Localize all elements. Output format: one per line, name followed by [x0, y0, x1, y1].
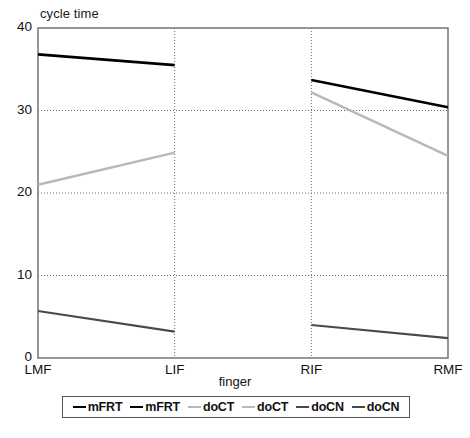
legend-item[interactable]: mFRT	[126, 400, 184, 414]
legend-item[interactable]: doCT	[184, 400, 238, 414]
series-line-docn	[311, 325, 448, 338]
legend-label: doCN	[311, 400, 344, 414]
legend-line-swatch-icon	[73, 406, 86, 408]
legend-label: mFRT	[88, 400, 123, 414]
series-line-mfrt	[38, 54, 175, 65]
legend-item[interactable]: doCT	[238, 400, 292, 414]
legend-label: doCT	[203, 400, 234, 414]
y-tick-label: 30	[4, 102, 32, 117]
legend-line-swatch-icon	[188, 406, 201, 408]
legend-line-swatch-icon	[352, 406, 365, 408]
legend-line-swatch-icon	[242, 406, 255, 408]
series-line-docn	[38, 311, 175, 332]
grid-lines	[38, 28, 448, 358]
chart-root: cycle time 010203040 LMFLIFRIFRMF finger…	[0, 0, 470, 438]
y-tick-label: 40	[4, 19, 32, 34]
series-line-doct	[38, 153, 175, 185]
legend-label: doCT	[257, 400, 288, 414]
legend-label: mFRT	[145, 400, 180, 414]
legend-item[interactable]: doCN	[292, 400, 348, 414]
y-tick-label: 20	[4, 184, 32, 199]
data-series-lines	[38, 54, 448, 338]
legend-line-swatch-icon	[296, 406, 309, 408]
legend-label: doCN	[367, 400, 400, 414]
x-axis-label: finger	[0, 374, 470, 389]
chart-plot-area	[0, 0, 470, 438]
legend-item[interactable]: doCN	[348, 400, 404, 414]
legend-item[interactable]: mFRT	[69, 400, 127, 414]
y-tick-label: 10	[4, 267, 32, 282]
legend-line-swatch-icon	[130, 406, 143, 408]
chart-legend: mFRTmFRTdoCTdoCTdoCNdoCN	[62, 396, 410, 418]
